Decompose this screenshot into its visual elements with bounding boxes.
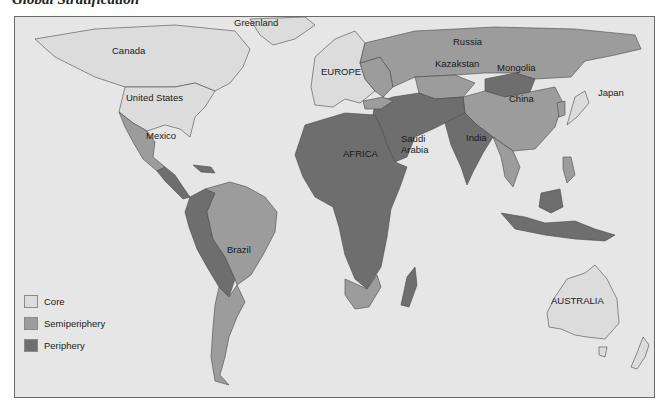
region-japan xyxy=(567,91,589,125)
region-borneo xyxy=(539,189,563,213)
region-tasmania xyxy=(599,347,607,357)
swatch-core xyxy=(24,295,38,308)
legend-label: Core xyxy=(44,296,65,307)
label-russia: Russia xyxy=(453,37,482,47)
label-mexico: Mexico xyxy=(146,131,176,141)
map-title: Global Stratification xyxy=(12,0,139,8)
label-brazil: Brazil xyxy=(227,245,251,255)
legend-item-core: Core xyxy=(24,293,105,309)
label-europe: EUROPE xyxy=(321,67,361,77)
label-united-states: United States xyxy=(126,93,183,103)
region-indonesia xyxy=(501,213,615,241)
world-map: Greenland Canada United States Mexico Br… xyxy=(14,16,655,398)
label-japan: Japan xyxy=(598,88,624,98)
region-central-america xyxy=(157,167,190,199)
region-madagascar xyxy=(401,267,417,307)
label-mongolia: Mongolia xyxy=(497,63,536,73)
label-africa: AFRICA xyxy=(343,149,378,159)
label-greenland: Greenland xyxy=(234,18,278,28)
region-philippines xyxy=(563,157,575,183)
label-australia: AUSTRALIA xyxy=(551,296,604,306)
label-kazakstan: Kazakstan xyxy=(435,59,479,69)
region-canada xyxy=(35,25,250,91)
legend-item-semiperiphery: Semiperiphery xyxy=(24,315,105,331)
legend: Core Semiperiphery Periphery xyxy=(24,293,105,359)
region-new-zealand xyxy=(631,337,649,369)
legend-label: Semiperiphery xyxy=(44,318,105,329)
label-canada: Canada xyxy=(112,46,145,56)
region-caribbean xyxy=(193,165,215,173)
legend-label: Periphery xyxy=(44,340,85,351)
label-saudi-arabia: Saudi Arabia xyxy=(401,133,435,155)
label-india: India xyxy=(466,133,487,143)
label-china: China xyxy=(509,94,534,104)
region-southern-cone xyxy=(211,285,245,385)
swatch-periphery xyxy=(24,339,38,352)
swatch-semiperiphery xyxy=(24,317,38,330)
legend-item-periphery: Periphery xyxy=(24,337,105,353)
